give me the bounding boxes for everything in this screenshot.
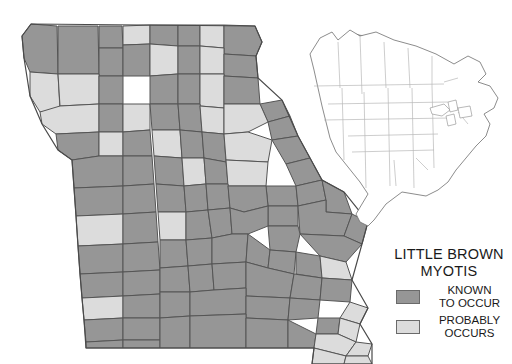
legend-label-probable-line1: PROBABLY	[427, 314, 512, 327]
county-livingston[interactable]	[150, 74, 178, 104]
county-callaway[interactable]	[226, 160, 268, 186]
county-webster[interactable]	[188, 264, 214, 292]
north-america-range-inset[interactable]	[298, 8, 512, 233]
county-morgan[interactable]	[184, 184, 208, 212]
county-bates[interactable]	[76, 214, 123, 246]
species-range-map-figure: LITTLE BROWN MYOTIS KNOWN TO OCCUR PROBA…	[0, 0, 512, 364]
county-schuyler[interactable]	[178, 25, 200, 46]
county-polk[interactable]	[160, 240, 188, 268]
county-washington[interactable]	[296, 252, 322, 278]
county-christian[interactable]	[160, 292, 190, 318]
county-cooper[interactable]	[182, 158, 206, 186]
county-cass[interactable]	[74, 186, 123, 216]
county-carroll[interactable]	[150, 104, 180, 130]
county-platte[interactable]	[56, 132, 99, 160]
county-barton[interactable]	[80, 272, 123, 298]
county-miller[interactable]	[208, 208, 232, 238]
county-howard[interactable]	[180, 130, 204, 158]
county-new-madrid[interactable]	[344, 356, 372, 364]
county-shelby[interactable]	[224, 76, 260, 104]
county-cole[interactable]	[206, 184, 230, 210]
county-linn[interactable]	[178, 74, 200, 104]
county-adair[interactable]	[200, 46, 224, 74]
county-ozark[interactable]	[190, 314, 246, 348]
county-wright[interactable]	[212, 262, 246, 290]
county-laclede[interactable]	[212, 234, 248, 264]
county-caldwell[interactable]	[123, 104, 150, 132]
county-audrain[interactable]	[224, 132, 272, 162]
county-macon[interactable]	[200, 74, 224, 108]
legend-label-probable: PROBABLY OCCURS	[427, 314, 512, 339]
county-douglas[interactable]	[190, 288, 246, 316]
county-daviess[interactable]	[123, 44, 150, 76]
county-nodaway[interactable]	[58, 26, 99, 74]
county-lafayette[interactable]	[123, 156, 154, 186]
county-dade[interactable]	[123, 294, 160, 318]
county-cedar[interactable]	[123, 270, 160, 296]
legend-label-known: KNOWN TO OCCUR	[427, 284, 512, 309]
county-putnam[interactable]	[150, 25, 178, 46]
county-barry[interactable]	[123, 340, 160, 348]
county-lawrence[interactable]	[123, 318, 160, 340]
county-johnson[interactable]	[123, 184, 156, 214]
county-boone[interactable]	[202, 132, 226, 162]
county-greene[interactable]	[160, 266, 190, 292]
county-jasper[interactable]	[82, 296, 123, 320]
county-saline[interactable]	[152, 130, 182, 158]
county-vernon[interactable]	[78, 244, 123, 274]
legend-label-probable-line2: OCCURS	[427, 327, 512, 340]
legend-item-known[interactable]: KNOWN TO OCCUR	[386, 284, 512, 309]
county-camden[interactable]	[186, 210, 212, 240]
county-madison[interactable]	[288, 298, 320, 320]
county-grundy[interactable]	[150, 44, 178, 76]
county-randolph[interactable]	[200, 106, 224, 134]
county-dekalb[interactable]	[99, 104, 123, 132]
county-newton[interactable]	[84, 318, 123, 342]
legend-title-line2: MYOTIS	[386, 263, 512, 280]
county-moniteau[interactable]	[204, 158, 228, 184]
county-scotland[interactable]	[200, 25, 224, 48]
county-montgomery[interactable]	[266, 186, 298, 206]
county-bollinger[interactable]	[316, 318, 340, 334]
county-atchison[interactable]	[22, 24, 58, 74]
county-clay[interactable]	[99, 132, 123, 156]
county-knox[interactable]	[224, 54, 258, 78]
county-gentry[interactable]	[99, 76, 123, 104]
county-mercer[interactable]	[123, 25, 150, 45]
county-harrison[interactable]	[99, 48, 123, 76]
county-chariton[interactable]	[178, 104, 202, 132]
county-monroe[interactable]	[224, 104, 268, 134]
county-crawford[interactable]	[268, 226, 300, 252]
county-wayne[interactable]	[288, 320, 316, 348]
county-ray[interactable]	[123, 130, 152, 156]
legend-item-probable[interactable]: PROBABLY OCCURS	[386, 314, 512, 339]
county-mcdonald[interactable]	[86, 340, 123, 348]
county-sullivan[interactable]	[178, 46, 200, 74]
county-iron[interactable]	[290, 274, 322, 300]
legend-swatch-known	[396, 290, 420, 304]
legend-label-known-line2: TO OCCUR	[427, 297, 512, 310]
map-legend: LITTLE BROWN MYOTIS KNOWN TO OCCUR PROBA…	[386, 246, 512, 339]
county-stone[interactable]	[160, 316, 190, 348]
county-hickory[interactable]	[158, 212, 186, 240]
county-st-francois[interactable]	[320, 278, 352, 302]
county-gasconade[interactable]	[268, 206, 298, 226]
inset-continent-outline	[310, 30, 498, 226]
county-jackson[interactable]	[72, 156, 123, 188]
county-henry[interactable]	[123, 212, 158, 244]
legend-title-line1: LITTLE BROWN	[386, 246, 512, 263]
county-pettis[interactable]	[154, 156, 184, 186]
county-worth[interactable]	[99, 26, 123, 48]
legend-swatch-probable	[396, 320, 420, 334]
county-benton[interactable]	[156, 184, 186, 212]
legend-label-known-line1: KNOWN	[427, 284, 512, 297]
county-st-clair[interactable]	[123, 242, 160, 272]
county-dallas[interactable]	[186, 238, 212, 266]
county-shannon[interactable]	[246, 296, 290, 320]
county-andrew[interactable]	[58, 74, 99, 106]
county-oregon[interactable]	[246, 318, 288, 348]
